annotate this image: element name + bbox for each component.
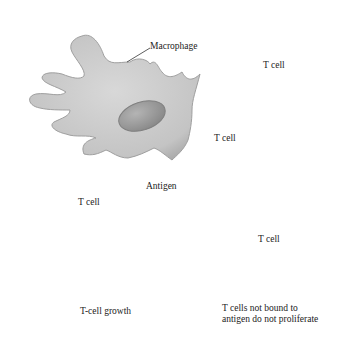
tcell-free-1-label: T cell bbox=[263, 60, 285, 71]
macrophage-label: Macrophage bbox=[150, 41, 197, 52]
growth-label: T-cell growth bbox=[80, 306, 131, 317]
macrophage bbox=[30, 35, 200, 160]
tcell-bound-label: T cell bbox=[78, 197, 100, 208]
caption-line-2: antigen do not proliferate bbox=[222, 314, 318, 325]
tcell-free-2-label: T cell bbox=[214, 133, 236, 144]
macrophage-body bbox=[30, 35, 200, 160]
no-proliferation-caption: T cells not bound to antigen do not prol… bbox=[222, 303, 318, 325]
caption-line-1: T cells not bound to bbox=[222, 303, 318, 314]
tcell-free-3-label: T cell bbox=[258, 234, 280, 245]
antigen-label: Antigen bbox=[146, 181, 177, 192]
